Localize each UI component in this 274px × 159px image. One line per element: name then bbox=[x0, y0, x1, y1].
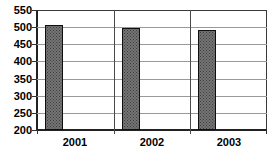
y-axis-label: 300 bbox=[2, 90, 32, 102]
plot-area bbox=[37, 10, 267, 130]
x-axis-label-2002: 2002 bbox=[127, 136, 177, 149]
y-tick-250 bbox=[32, 113, 37, 114]
y-axis-label: 350 bbox=[2, 73, 32, 85]
x-tick bbox=[37, 130, 38, 134]
gridline-400 bbox=[37, 61, 267, 62]
bar-2003 bbox=[198, 30, 216, 130]
y-axis-label: 250 bbox=[2, 107, 32, 119]
y-axis-label: 450 bbox=[2, 38, 32, 50]
y-axis-label: 200 bbox=[2, 124, 32, 136]
gridline-250 bbox=[37, 113, 267, 114]
y-axis-label: 550 bbox=[2, 4, 32, 16]
gridline-500 bbox=[37, 27, 267, 28]
y-tick-500 bbox=[32, 27, 37, 28]
category-separator bbox=[190, 10, 191, 134]
gridline-300 bbox=[37, 96, 267, 97]
y-axis-label: 400 bbox=[2, 55, 32, 67]
x-axis-line bbox=[36, 129, 267, 131]
bar-2002 bbox=[122, 28, 140, 130]
gridline-450 bbox=[37, 44, 267, 45]
x-axis-label-2001: 2001 bbox=[50, 136, 100, 149]
x-axis-label-2003: 2003 bbox=[204, 136, 254, 149]
bar-chart: 550500450400350300250200200120022003 bbox=[0, 0, 274, 159]
y-tick-550 bbox=[32, 10, 37, 11]
bar-2001 bbox=[45, 25, 63, 130]
category-separator bbox=[114, 10, 115, 134]
gridline-350 bbox=[37, 79, 267, 80]
y-tick-300 bbox=[32, 96, 37, 97]
y-tick-350 bbox=[32, 79, 37, 80]
y-tick-450 bbox=[32, 44, 37, 45]
y-tick-400 bbox=[32, 61, 37, 62]
x-tick bbox=[266, 130, 267, 134]
y-axis-label: 500 bbox=[2, 21, 32, 33]
